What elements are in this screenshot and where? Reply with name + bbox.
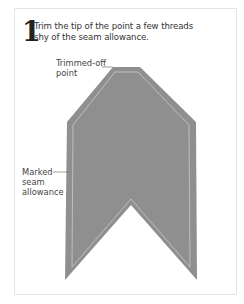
trimmed-off-point-label: Trimmed-off point	[56, 58, 106, 78]
fabric-shape	[65, 67, 197, 280]
fabric-point-illustration	[0, 0, 244, 304]
marked-seam-allowance-label: Marked seam allowance	[22, 167, 64, 197]
